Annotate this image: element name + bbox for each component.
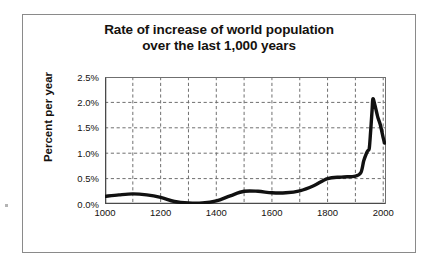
- x-tick-label: 1600: [250, 207, 294, 219]
- y-axis-tick-labels: 0.0%0.5%1.0%1.5%2.0%2.5%: [57, 70, 99, 211]
- x-tick-label: 1200: [139, 207, 183, 219]
- y-axis-title: Percent per year: [42, 52, 54, 182]
- chart-title-line-2: over the last 1,000 years: [22, 38, 416, 54]
- x-axis-tick-labels: 100012001400160018002000: [0, 207, 438, 223]
- plot-area: [105, 77, 386, 204]
- y-tick-label: 1.5%: [57, 122, 99, 133]
- y-tick-label: 2.0%: [57, 97, 99, 108]
- y-tick-label: 1.0%: [57, 148, 99, 159]
- plot-svg: [105, 77, 386, 204]
- y-tick-label: 2.5%: [57, 72, 99, 83]
- chart-title: Rate of increase of world population ove…: [22, 22, 416, 54]
- data-series-line: [105, 99, 385, 203]
- x-tick-label: 1800: [306, 207, 350, 219]
- chart-title-line-1: Rate of increase of world population: [104, 22, 334, 37]
- x-tick-label: 1400: [194, 207, 238, 219]
- x-tick-label: 1000: [83, 207, 127, 219]
- x-tick-label: 2000: [361, 207, 405, 219]
- y-tick-label: 0.5%: [57, 173, 99, 184]
